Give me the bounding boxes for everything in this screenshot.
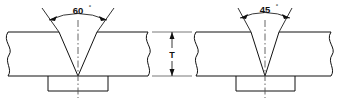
left-plate-outline	[8, 32, 78, 76]
break-line	[329, 32, 333, 76]
angle-extension-line-right	[279, 8, 292, 32]
degree-symbol: °	[276, 3, 279, 9]
thickness-label: T	[169, 50, 175, 60]
weld-joint-drawing: 60 ° T	[0, 0, 338, 106]
groove-angle-label: 60	[73, 5, 84, 16]
left-plate-outline	[196, 32, 265, 76]
right-plate-outline	[265, 32, 331, 76]
groove-angle-label: 45	[260, 4, 271, 15]
break-line	[6, 32, 10, 76]
break-line	[194, 32, 198, 76]
degree-symbol: °	[89, 4, 92, 10]
plate-thickness-dimension: T	[152, 32, 192, 76]
dimension-arrow-bottom	[170, 69, 175, 76]
right-plate-outline	[78, 32, 148, 76]
break-line	[146, 32, 150, 76]
dimension-arrow-top	[170, 32, 175, 39]
backing-bar	[236, 76, 295, 91]
right-joint: 45 °	[194, 3, 333, 98]
technical-drawing-canvas: 60 ° T	[0, 0, 338, 106]
left-joint: 60 °	[6, 4, 150, 98]
angle-extension-line-left	[238, 8, 251, 32]
